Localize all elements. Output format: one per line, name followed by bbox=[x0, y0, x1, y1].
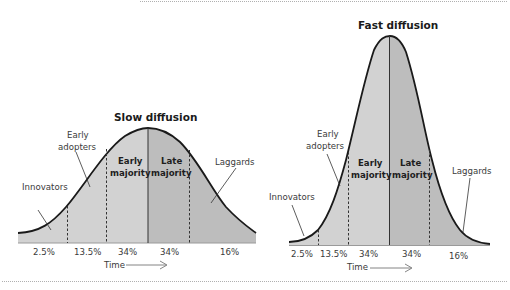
slow-pct-early-majority: 34% bbox=[118, 247, 137, 257]
slow-pct-early-adopters: 13.5% bbox=[74, 247, 101, 257]
slow-time-arrow-icon bbox=[126, 261, 167, 269]
fast-pct-innovators: 2.5% bbox=[291, 249, 313, 259]
slow-label-early-adopters-1: Early bbox=[67, 130, 89, 140]
slow-label-early-majority-2: majority bbox=[110, 168, 151, 178]
slow-label-laggards: Laggards bbox=[215, 157, 255, 167]
fast-pct-early-adopters: 13.5% bbox=[320, 249, 347, 259]
fast-time-label: Time bbox=[346, 262, 368, 272]
slow-label-early-majority-1: Early bbox=[118, 156, 143, 166]
slow-pct-laggards: 16% bbox=[220, 247, 239, 257]
slow-label-late-majority-2: majority bbox=[151, 168, 192, 178]
fast-label-laggards: Laggards bbox=[452, 166, 492, 176]
slow-diffusion-chart: Slow diffusion Innovators Early adopters… bbox=[18, 111, 256, 270]
fast-label-late-majority-2: majority bbox=[392, 170, 433, 180]
fast-time-arrow-icon bbox=[370, 264, 412, 272]
fast-pct-late-majority: 34% bbox=[402, 249, 421, 259]
slow-label-early-adopters-2: adopters bbox=[58, 142, 97, 152]
fast-label-early-majority-2: majority bbox=[351, 170, 392, 180]
slow-label-innovators: Innovators bbox=[22, 182, 68, 192]
fast-label-late-majority-1: Late bbox=[400, 158, 421, 168]
fast-title: Fast diffusion bbox=[358, 19, 438, 31]
slow-title: Slow diffusion bbox=[114, 111, 197, 123]
fast-pct-early-majority: 34% bbox=[359, 249, 378, 259]
fast-label-early-adopters-2: adopters bbox=[306, 141, 345, 151]
slow-pct-innovators: 2.5% bbox=[33, 247, 55, 257]
slow-pct-late-majority: 34% bbox=[160, 247, 179, 257]
fast-label-early-majority-1: Early bbox=[358, 158, 383, 168]
slow-time-label: Time bbox=[103, 260, 125, 270]
diffusion-diagram: Slow diffusion Innovators Early adopters… bbox=[0, 0, 510, 290]
slow-label-late-majority-1: Late bbox=[161, 156, 182, 166]
fast-pct-laggards: 16% bbox=[449, 251, 468, 261]
fast-label-early-adopters-1: Early bbox=[317, 129, 339, 139]
fast-diffusion-chart: Fast diffusion Innovators Early adopters… bbox=[269, 19, 492, 272]
fast-label-innovators: Innovators bbox=[269, 192, 315, 202]
